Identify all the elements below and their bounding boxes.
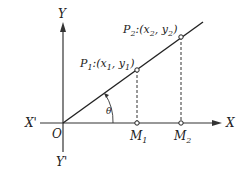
theta-label: θ [106,106,112,116]
m2-label: M2 [173,129,191,145]
y-axis-arrow-icon [60,22,66,32]
angle-arrow-icon [104,93,109,98]
p1-label: P1:(x1, y1) [79,57,134,72]
origin-label: O [52,127,62,141]
point-m2 [179,121,183,125]
point-p2 [179,35,183,39]
y-neg-label: Y' [56,155,67,169]
x-label: X [225,116,235,130]
y-label: Y [58,7,67,21]
p2-label: P2:(x2, y2) [122,23,177,38]
x-axis-arrow-icon [212,120,222,126]
x-neg-label: X' [24,116,37,130]
m1-label: M1 [129,129,147,145]
point-m1 [135,121,139,125]
point-p1 [135,68,139,72]
coordinate-diagram: Y Y' X X' O θ P1:(x1, y1) P2:(x2, y2) M1… [0,0,245,177]
